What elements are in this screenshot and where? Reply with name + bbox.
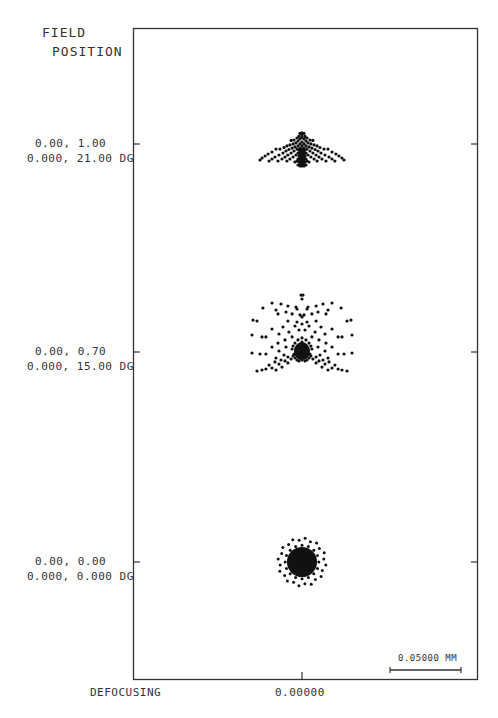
spot-point — [283, 574, 286, 577]
spot-point — [322, 558, 325, 561]
spot-point — [261, 306, 264, 309]
spot-point — [293, 342, 296, 345]
spot-point — [310, 312, 313, 315]
spot-point — [307, 576, 310, 579]
spot-point — [270, 345, 273, 348]
spot-point — [323, 363, 326, 366]
spot-point — [285, 144, 288, 147]
spot-point — [274, 356, 277, 359]
spot-point — [270, 157, 273, 160]
spot-point — [291, 147, 294, 150]
spot-point — [283, 155, 286, 158]
spot-diagram-plot — [0, 0, 498, 718]
spot-point — [337, 367, 340, 370]
spot-point — [285, 554, 288, 557]
spot-point — [337, 352, 340, 355]
spot-point — [286, 580, 289, 583]
spot-point — [307, 160, 310, 163]
spot-point — [278, 148, 281, 151]
spot-point — [287, 330, 290, 333]
spot-point — [295, 136, 298, 139]
spot-point — [277, 363, 280, 366]
spot-point — [319, 151, 322, 154]
spot-point — [280, 157, 283, 160]
spot-point — [270, 327, 273, 330]
spot-point — [309, 344, 312, 347]
spot-point — [323, 349, 326, 352]
spot-point — [286, 355, 289, 358]
spot-point — [320, 575, 323, 578]
spot-point — [286, 361, 289, 364]
spot-point — [285, 567, 288, 570]
spot-point — [308, 138, 311, 141]
spot-point — [349, 319, 352, 322]
spot-point — [260, 368, 263, 371]
spot-point — [340, 306, 343, 309]
spot-point — [267, 152, 270, 155]
spot-point — [277, 349, 280, 352]
spot-point — [340, 368, 343, 371]
spot-point — [286, 319, 289, 322]
spot-point — [307, 324, 310, 327]
spot-point — [324, 342, 327, 345]
spot-point — [315, 304, 318, 307]
spot-point — [310, 147, 313, 150]
spot-point — [277, 332, 280, 335]
spot-point — [311, 151, 314, 154]
spot-point — [310, 347, 313, 350]
spot-point — [304, 537, 307, 540]
spot-point — [300, 336, 303, 339]
spot-point — [314, 578, 317, 581]
spot-point — [286, 153, 289, 156]
spot-point — [309, 142, 312, 145]
spot-point — [337, 154, 340, 157]
spot-point — [280, 552, 283, 555]
spot-point — [320, 366, 323, 369]
spot-point — [323, 153, 326, 156]
spot-point — [309, 155, 312, 158]
spot-point — [305, 320, 308, 323]
spot-point — [300, 315, 303, 318]
spot-point — [288, 143, 291, 146]
spot-point — [350, 333, 353, 336]
spot-point — [317, 155, 320, 158]
spot-point — [309, 540, 312, 543]
spot-point — [255, 319, 258, 322]
spot-point — [317, 338, 320, 341]
spot-point — [268, 159, 271, 162]
spot-point — [291, 347, 294, 350]
spot-point — [324, 312, 327, 315]
spot-point — [295, 307, 298, 310]
spot-point — [350, 351, 353, 354]
spot-point — [318, 353, 321, 356]
tick-marks — [134, 144, 478, 680]
spot-point — [276, 342, 279, 345]
spot-point — [292, 138, 295, 141]
spot-point — [255, 369, 258, 372]
spot-point — [287, 543, 290, 546]
spot-point — [292, 149, 295, 152]
spot-point — [264, 367, 267, 370]
spot-point — [281, 546, 284, 549]
spot-point — [279, 302, 282, 305]
spot-point — [319, 325, 322, 328]
spot-point — [330, 301, 333, 304]
spot-point — [303, 582, 306, 585]
spot-point — [321, 302, 324, 305]
spot-point — [314, 330, 317, 333]
spot-point — [297, 584, 300, 587]
spot-point — [297, 359, 300, 362]
spot-point — [333, 159, 336, 162]
spot-point — [286, 304, 289, 307]
spot-point — [317, 561, 320, 564]
spot-point — [293, 160, 296, 163]
spot-point — [330, 345, 333, 348]
spot-point — [281, 151, 284, 154]
spot-point — [294, 545, 297, 548]
spot-point — [290, 139, 293, 142]
spot-point — [289, 572, 292, 575]
spot-point — [270, 301, 273, 304]
spot-point — [323, 551, 326, 554]
spot-point — [283, 338, 286, 341]
spot-point — [270, 150, 273, 153]
